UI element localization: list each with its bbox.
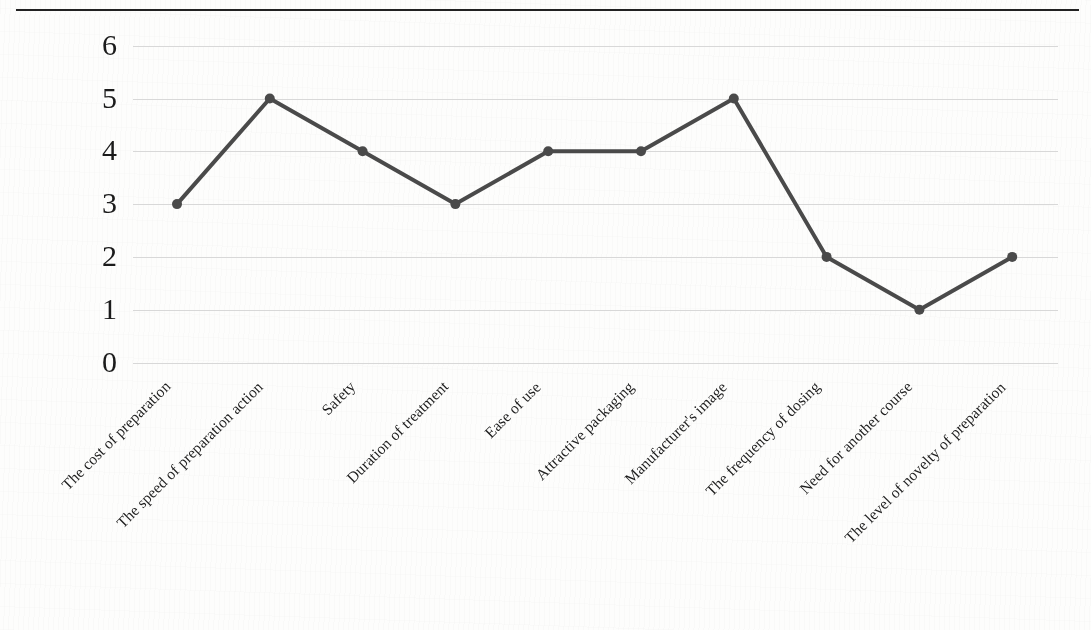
x-axis-category-label: Safety <box>318 378 358 418</box>
y-axis-tick-label: 5 <box>77 83 117 113</box>
gridline <box>133 46 1058 47</box>
y-axis-tick-label: 2 <box>77 241 117 271</box>
plot-area: 0123456 The cost of preparation: 3The sp… <box>0 0 1091 630</box>
x-axis-category-label: Duration of treatment <box>343 378 451 486</box>
y-axis-tick-label: 1 <box>77 294 117 324</box>
gridline <box>133 204 1058 205</box>
gridline <box>133 151 1058 152</box>
y-axis-tick-label: 0 <box>77 347 117 377</box>
x-axis-category-label: Manufacturer's image <box>621 378 730 487</box>
y-axis-tick-label: 4 <box>77 135 117 165</box>
y-axis-tick-label: 3 <box>77 188 117 218</box>
x-axis-category-label: Ease of use <box>481 378 544 441</box>
x-axis-category-label: The speed of preparation action <box>113 378 266 531</box>
gridline <box>133 310 1058 311</box>
x-axis-category-label: Attractive packaging <box>532 378 637 483</box>
x-axis-category-label: The level of novelty of preparation <box>841 378 1009 546</box>
gridline <box>133 99 1058 100</box>
y-axis-tick-label: 6 <box>77 30 117 60</box>
line-series: The cost of preparation: 3The speed of p… <box>0 0 1091 630</box>
gridline <box>133 257 1058 258</box>
gridline <box>133 363 1058 364</box>
chart-page: 0123456 The cost of preparation: 3The sp… <box>0 0 1091 630</box>
